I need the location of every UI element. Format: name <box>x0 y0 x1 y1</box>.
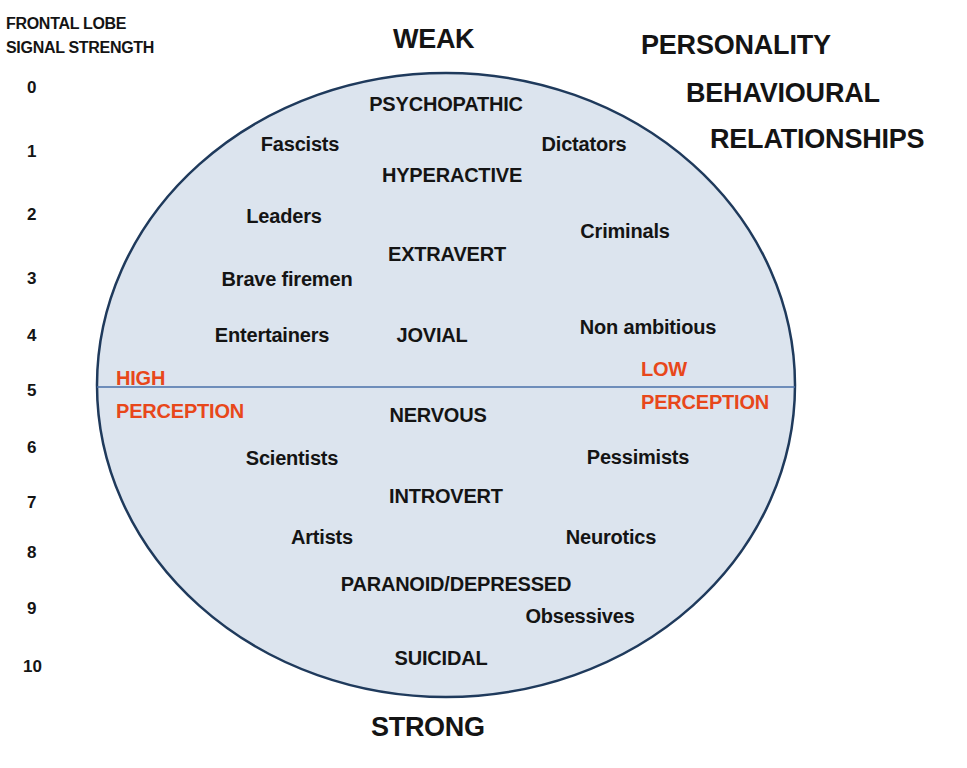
label-criminals: Criminals <box>580 220 669 243</box>
tick-8: 8 <box>27 543 36 563</box>
label-pessimists: Pessimists <box>587 446 690 469</box>
tick-6: 6 <box>27 438 36 458</box>
low-perception-label: LOW PERCEPTION <box>641 353 769 419</box>
tick-1: 1 <box>27 142 36 162</box>
label-nervous: NERVOUS <box>389 404 486 427</box>
low-perception-line2: PERCEPTION <box>641 386 769 419</box>
label-obsessives: Obsessives <box>525 605 634 628</box>
label-neurotics: Neurotics <box>566 526 656 549</box>
axis-title: FRONTAL LOBE SIGNAL STRENGTH <box>6 12 154 60</box>
title-line3: RELATIONSHIPS <box>710 124 924 155</box>
title-line1: PERSONALITY <box>641 30 831 61</box>
label-paranoid-depressed: PARANOID/DEPRESSED <box>341 573 572 596</box>
tick-3: 3 <box>27 269 36 289</box>
label-jovial: JOVIAL <box>396 324 467 347</box>
high-perception-label: HIGH PERCEPTION <box>116 362 244 428</box>
tick-0: 0 <box>27 78 36 98</box>
label-introvert: INTROVERT <box>389 485 503 508</box>
label-leaders: Leaders <box>246 205 321 228</box>
title-line2: BEHAVIOURAL <box>686 78 880 109</box>
axis-title-line2: SIGNAL STRENGTH <box>6 36 154 60</box>
strong-label: STRONG <box>371 712 485 743</box>
tick-4: 4 <box>27 326 36 346</box>
high-perception-line2: PERCEPTION <box>116 395 244 428</box>
label-brave-firemen: Brave firemen <box>222 268 353 291</box>
weak-label: WEAK <box>393 24 474 55</box>
tick-9: 9 <box>27 599 36 619</box>
axis-title-line1: FRONTAL LOBE <box>6 12 154 36</box>
label-extravert: EXTRAVERT <box>388 243 506 266</box>
tick-2: 2 <box>27 205 36 225</box>
tick-5: 5 <box>27 381 36 401</box>
label-fascists: Fascists <box>261 133 339 156</box>
low-perception-line1: LOW <box>641 353 769 386</box>
label-suicidal: SUICIDAL <box>395 647 488 670</box>
label-scientists: Scientists <box>246 447 338 470</box>
tick-10: 10 <box>23 657 42 677</box>
label-psychopathic: PSYCHOPATHIC <box>369 93 523 116</box>
tick-7: 7 <box>27 493 36 513</box>
label-non-ambitious: Non ambitious <box>580 316 716 339</box>
label-entertainers: Entertainers <box>215 324 329 347</box>
label-hyperactive: HYPERACTIVE <box>382 164 522 187</box>
high-perception-line1: HIGH <box>116 362 244 395</box>
label-dictators: Dictators <box>542 133 627 156</box>
label-artists: Artists <box>291 526 353 549</box>
